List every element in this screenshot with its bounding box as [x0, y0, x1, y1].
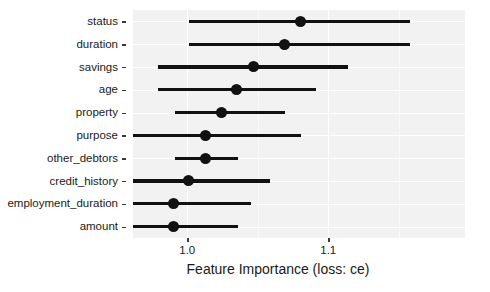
plot-panel — [133, 10, 465, 238]
x-axis-title-text: Feature Importance (loss: ce) — [187, 261, 370, 277]
data-row — [133, 170, 465, 193]
feature-importance-chart: statusdurationsavingsagepropertypurposeo… — [0, 0, 490, 292]
point-estimate-marker — [216, 107, 227, 118]
data-row — [133, 78, 465, 101]
point-estimate-marker — [168, 221, 179, 232]
point-estimate-marker — [231, 84, 242, 95]
data-row — [133, 192, 465, 215]
x-axis-tick-mark — [187, 238, 188, 242]
x-axis-title: Feature Importance (loss: ce) — [0, 261, 490, 277]
point-estimate-marker — [200, 153, 211, 164]
y-axis: statusdurationsavingsagepropertypurposeo… — [0, 10, 126, 238]
y-axis-tick-mark — [122, 135, 126, 136]
y-axis-tick-mark — [122, 113, 126, 114]
interval-bar — [189, 43, 410, 46]
interval-bar — [133, 225, 238, 228]
y-axis-tick-label: property — [76, 101, 126, 124]
data-row — [133, 124, 465, 147]
y-axis-tick-label: amount — [80, 215, 126, 238]
point-estimate-marker — [279, 39, 290, 50]
y-axis-tick-label: credit_history — [50, 170, 126, 193]
x-axis-tick-label: 1.1 — [320, 244, 336, 256]
y-axis-tick-label: other_debtors — [47, 147, 126, 170]
y-axis-tick-mark — [122, 21, 126, 22]
y-axis-tick-label: purpose — [76, 124, 126, 147]
y-axis-tick-mark — [122, 204, 126, 205]
interval-bar — [133, 202, 251, 205]
y-axis-tick-mark — [122, 227, 126, 228]
x-axis-tick-label: 1.0 — [179, 244, 195, 256]
data-row — [133, 147, 465, 170]
y-axis-tick-mark — [122, 90, 126, 91]
data-row — [133, 33, 465, 56]
y-axis-tick-label: savings — [79, 56, 126, 79]
interval-bar — [133, 179, 270, 182]
data-row — [133, 56, 465, 79]
y-axis-tick-mark — [122, 67, 126, 68]
y-axis-tick-mark — [122, 158, 126, 159]
y-axis-tick-label: status — [87, 10, 126, 33]
data-row — [133, 215, 465, 238]
x-axis-tick-mark — [328, 238, 329, 242]
data-row — [133, 10, 465, 33]
point-estimate-marker — [295, 16, 306, 27]
data-row — [133, 101, 465, 124]
point-estimate-marker — [168, 198, 179, 209]
y-axis-tick-mark — [122, 181, 126, 182]
point-estimate-marker — [200, 130, 211, 141]
y-axis-tick-mark — [122, 44, 126, 45]
point-estimate-marker — [183, 175, 194, 186]
y-axis-tick-label: employment_duration — [7, 192, 126, 215]
point-estimate-marker — [248, 61, 259, 72]
y-axis-tick-label: duration — [76, 33, 126, 56]
interval-bar — [133, 134, 301, 137]
interval-bar — [175, 111, 285, 114]
